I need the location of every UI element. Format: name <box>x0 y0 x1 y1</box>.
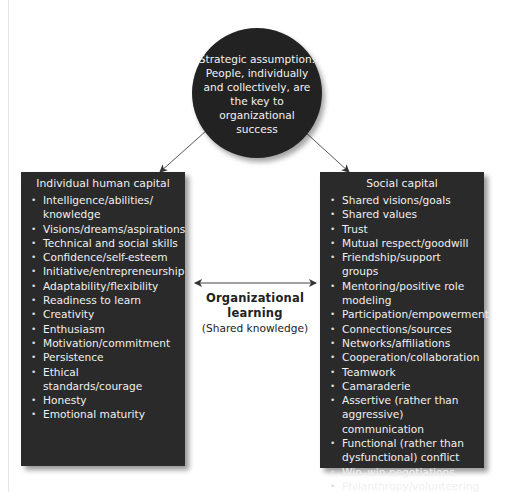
list-item: Motivation/commitment <box>31 336 181 350</box>
social-capital-title: Social capital <box>320 177 484 191</box>
list-item: Readiness to learn <box>31 293 181 307</box>
list-item: Emotional maturity <box>31 407 181 421</box>
strategic-assumption-circle: Strategic assumption: People, individual… <box>192 28 322 158</box>
list-item: Shared visions/goals <box>330 193 480 207</box>
list-item: Honesty <box>31 393 181 407</box>
individual-human-capital-list: Intelligence/abilities/ knowledge Vision… <box>21 193 185 422</box>
list-item: Shared values <box>330 207 480 221</box>
list-item: Win–win negotiations <box>330 465 480 479</box>
list-item: Creativity <box>31 307 181 321</box>
list-item: Ethical standards/courage <box>31 365 181 394</box>
list-item: Initiative/entrepreneurship <box>31 264 181 278</box>
list-item: Participation/empowerment <box>330 307 480 321</box>
list-item: Functional (rather than dysfunctional) c… <box>330 436 480 465</box>
list-item: Philanthropy/volunteering <box>330 479 480 492</box>
organizational-learning-subtitle: (Shared knowledge) <box>190 321 320 336</box>
list-item: Friendship/support groups <box>330 250 480 279</box>
list-item: Visions/dreams/aspirations <box>31 222 181 236</box>
social-capital-list: Shared visions/goals Shared values Trust… <box>320 193 484 492</box>
list-item: Intelligence/abilities/ knowledge <box>31 193 181 222</box>
list-item: Connections/sources <box>330 322 480 336</box>
arrow-down-right-icon <box>304 131 349 172</box>
list-item: Assertive (rather than aggressive) commu… <box>330 393 480 436</box>
list-item: Adaptability/flexibility <box>31 279 181 293</box>
list-item: Enthusiasm <box>31 322 181 336</box>
list-item: Networks/affiliations <box>330 336 480 350</box>
organizational-learning-label: Organizational learning (Shared knowledg… <box>190 291 320 336</box>
social-capital-box: Social capital Shared visions/goals Shar… <box>320 172 484 468</box>
list-item: Confidence/self-esteem <box>31 250 181 264</box>
individual-human-capital-title: Individual human capital <box>21 177 185 191</box>
individual-human-capital-box: Individual human capital Intelligence/ab… <box>21 172 185 466</box>
list-item: Teamwork <box>330 365 480 379</box>
list-item: Trust <box>330 222 480 236</box>
list-item: Persistence <box>31 350 181 364</box>
list-item: Mentoring/positive role modeling <box>330 279 480 308</box>
arrow-down-left-icon <box>160 131 206 172</box>
list-item: Cooperation/collaboration <box>330 350 480 364</box>
organizational-learning-title: Organizational learning <box>190 291 320 321</box>
strategic-assumption-text: Strategic assumption: People, individual… <box>197 52 317 136</box>
list-item: Camaraderie <box>330 379 480 393</box>
list-item: Technical and social skills <box>31 236 181 250</box>
list-item: Mutual respect/goodwill <box>330 236 480 250</box>
